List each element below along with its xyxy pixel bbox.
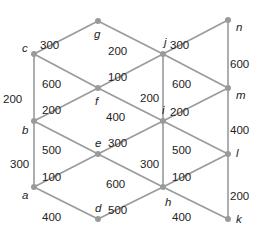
node-g	[95, 18, 101, 24]
edge-weight-label: 300	[108, 137, 127, 149]
edge-weight-label: 400	[172, 211, 191, 223]
edge-weight-label: 200	[3, 93, 22, 105]
node-m	[225, 85, 231, 91]
edge-weight-label: 200	[140, 92, 159, 104]
edge-weight-label: 300	[10, 158, 29, 170]
node-n	[225, 17, 231, 23]
edge-weight-label: 400	[230, 124, 249, 136]
node-label-d: d	[95, 202, 102, 214]
node-h	[160, 184, 166, 190]
edge-weight-label: 300	[140, 158, 159, 170]
edge-weight-label: 600	[106, 178, 125, 190]
node-label-c: c	[22, 42, 28, 54]
edge-weight-label: 200	[42, 104, 61, 116]
node-label-f: f	[95, 95, 100, 107]
edge-weight-label: 300	[170, 39, 189, 51]
node-a	[31, 184, 37, 190]
node-e	[95, 151, 101, 157]
node-label-h: h	[165, 196, 171, 208]
edge-weight-label: 200	[230, 190, 249, 202]
edge-weight-label: 200	[170, 106, 189, 118]
node-label-g: g	[94, 28, 101, 40]
node-b	[31, 118, 37, 124]
node-j	[160, 51, 166, 57]
node-f	[95, 85, 101, 91]
node-k	[225, 216, 231, 222]
edge-weight-label: 100	[108, 71, 127, 83]
node-label-l: l	[236, 147, 239, 159]
node-d	[95, 216, 101, 222]
edge-weight-label: 500	[172, 144, 191, 156]
edges-group	[34, 20, 228, 219]
edge-weight-label: 200	[108, 45, 127, 57]
edge-weight-label: 500	[108, 204, 127, 216]
edge-weight-label: 400	[106, 111, 125, 123]
node-label-a: a	[22, 189, 28, 201]
node-label-b: b	[22, 124, 29, 136]
weighted-graph-diagram: 3002003006001006002002006002004002005003…	[0, 0, 257, 236]
edge-weight-label: 300	[40, 39, 59, 51]
node-l	[225, 151, 231, 157]
edge-weight-label: 600	[172, 78, 191, 90]
node-label-i: i	[162, 104, 165, 116]
node-c	[31, 51, 37, 57]
node-label-k: k	[236, 213, 243, 225]
edge-weight-label: 100	[42, 171, 61, 183]
edge-weight-labels: 3002003006001006002002006002004002005003…	[3, 39, 249, 223]
node-label-n: n	[236, 21, 242, 33]
node-label-j: j	[162, 36, 167, 48]
node-label-e: e	[95, 137, 101, 149]
edge-weight-label: 600	[230, 58, 249, 70]
edge-weight-label: 600	[42, 78, 61, 90]
edge-weight-label: 100	[172, 171, 191, 183]
nodes-group	[31, 17, 231, 222]
node-label-m: m	[236, 89, 246, 101]
edge-weight-label: 500	[42, 144, 61, 156]
node-i	[160, 118, 166, 124]
node-labels: abcdefghijklmn	[22, 21, 246, 225]
edge-weight-label: 400	[42, 211, 61, 223]
